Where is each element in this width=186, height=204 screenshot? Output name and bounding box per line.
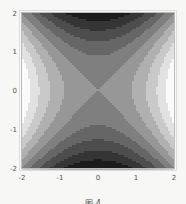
y-tick-label: -2 bbox=[10, 165, 17, 173]
x-tick-label: 1 bbox=[134, 174, 138, 182]
contour-bands bbox=[22, 13, 174, 169]
y-tick-label: -1 bbox=[10, 126, 17, 134]
contour-plot: -2-1012-2-1012 bbox=[0, 0, 186, 196]
figure-caption: 图 4 bbox=[0, 197, 186, 204]
x-tick-label: 0 bbox=[96, 174, 100, 182]
y-tick-label: 0 bbox=[13, 87, 17, 95]
y-tick-label: 1 bbox=[13, 48, 17, 56]
x-tick-label: 2 bbox=[172, 174, 176, 182]
y-tick-label: 2 bbox=[13, 10, 17, 18]
x-tick-label: -2 bbox=[19, 174, 26, 182]
x-tick-label: -1 bbox=[57, 174, 64, 182]
